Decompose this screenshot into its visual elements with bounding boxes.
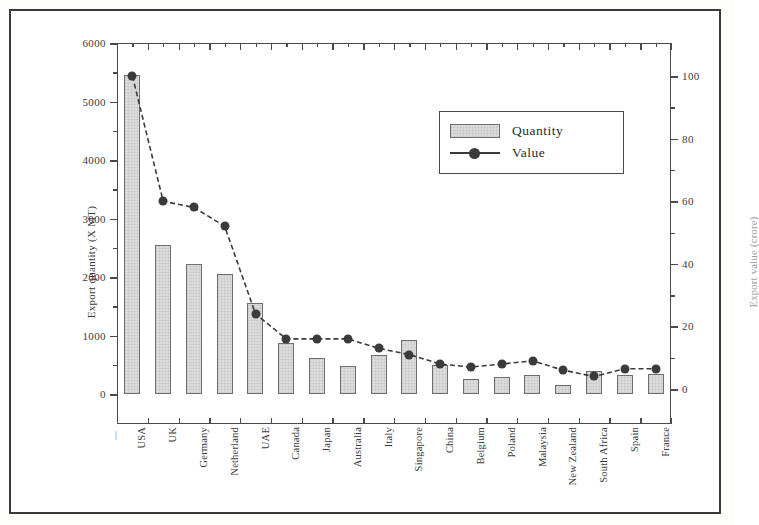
y-tick-label-left: 6000 bbox=[82, 37, 106, 49]
y-tick-label-left: 4000 bbox=[82, 154, 106, 166]
x-axis-end-cap-right: | bbox=[667, 429, 669, 440]
y-tick-label-left: 5000 bbox=[82, 96, 106, 108]
y-tick-right bbox=[671, 201, 678, 203]
value-marker bbox=[128, 72, 137, 81]
y-tick-label-right: 0 bbox=[682, 383, 688, 395]
legend-item-value: Value bbox=[450, 142, 613, 164]
y-tick-label-left: 3000 bbox=[82, 213, 106, 225]
legend-label-value: Value bbox=[512, 145, 545, 161]
value-marker bbox=[466, 363, 475, 372]
y-tick-label-right: 100 bbox=[682, 70, 700, 82]
value-marker bbox=[189, 203, 198, 212]
value-marker bbox=[559, 366, 568, 375]
value-marker bbox=[282, 334, 291, 343]
x-axis-label: Italy bbox=[383, 427, 394, 447]
y-tick-right bbox=[671, 76, 678, 78]
value-marker bbox=[251, 309, 260, 318]
y-tick-left bbox=[110, 102, 117, 104]
y-tick-label-left: 1000 bbox=[82, 330, 106, 342]
y-tick-label-left: 2000 bbox=[82, 271, 106, 283]
x-axis-label: Netherland bbox=[229, 427, 240, 476]
x-axis-label: Malaysia bbox=[537, 427, 548, 467]
value-marker bbox=[313, 334, 322, 343]
legend-line-dot-icon bbox=[450, 146, 500, 160]
y-tick-label-right: 80 bbox=[682, 133, 694, 145]
x-axis-label: New Zealand bbox=[567, 427, 578, 485]
y-tick-left bbox=[110, 43, 117, 45]
value-marker bbox=[220, 222, 229, 231]
x-axis-label: Canada bbox=[290, 427, 301, 460]
legend-label-quantity: Quantity bbox=[512, 123, 563, 139]
value-marker bbox=[405, 350, 414, 359]
y-tick-left bbox=[110, 277, 117, 279]
y-tick-label-left: 0 bbox=[100, 388, 106, 400]
x-axis-label: South Africa bbox=[598, 427, 609, 483]
plot-area: 0100020003000400050006000 020406080100 Q… bbox=[117, 43, 671, 424]
y-tick-label-right: 20 bbox=[682, 320, 694, 332]
x-axis-label: Japan bbox=[321, 427, 332, 452]
legend-item-quantity: Quantity bbox=[450, 120, 613, 142]
legend-bar-swatch-icon bbox=[450, 124, 500, 138]
value-marker bbox=[374, 344, 383, 353]
x-axis-label: UK bbox=[167, 427, 178, 443]
x-axis-label: Australia bbox=[352, 427, 363, 467]
y-minor-tick-right bbox=[671, 170, 675, 172]
y-tick-right bbox=[671, 139, 678, 141]
value-marker bbox=[590, 372, 599, 381]
x-axis-end-cap-left: | bbox=[115, 429, 117, 440]
x-axis-label: Poland bbox=[506, 427, 517, 457]
value-marker bbox=[159, 197, 168, 206]
value-marker bbox=[528, 356, 537, 365]
x-axis-label: Germany bbox=[198, 427, 209, 467]
x-axis-label: China bbox=[444, 427, 455, 453]
y-minor-tick-right bbox=[671, 107, 675, 109]
value-marker bbox=[651, 364, 660, 373]
x-axis-label: Singapore bbox=[413, 427, 424, 471]
y-tick-left bbox=[110, 219, 117, 221]
y-axis-right-title: Export value (crore) bbox=[748, 216, 759, 307]
y-minor-tick-right bbox=[671, 233, 675, 235]
value-marker bbox=[620, 364, 629, 373]
top-axis-tick bbox=[671, 43, 672, 50]
x-axis-label: Spain bbox=[629, 427, 640, 452]
value-marker bbox=[436, 359, 445, 368]
figure-border: Export quantity (X MT) Export value (cro… bbox=[9, 9, 721, 514]
value-marker bbox=[497, 359, 506, 368]
x-axis-label: Belgium bbox=[475, 427, 486, 465]
y-minor-tick-right bbox=[671, 295, 675, 297]
line-series-value bbox=[117, 43, 671, 424]
chart-legend: Quantity Value bbox=[439, 111, 624, 174]
y-tick-label-right: 60 bbox=[682, 195, 694, 207]
y-tick-left bbox=[110, 336, 117, 338]
y-tick-right bbox=[671, 264, 678, 266]
y-tick-right bbox=[671, 326, 678, 328]
x-axis-tick bbox=[671, 418, 672, 424]
y-tick-left bbox=[110, 160, 117, 162]
y-minor-tick-right bbox=[671, 358, 675, 360]
x-axis-category-labels: USAUKGermanyNetherlandUAECanadaJapanAust… bbox=[117, 427, 671, 525]
value-marker bbox=[343, 334, 352, 343]
y-tick-right bbox=[671, 389, 678, 391]
y-tick-left bbox=[110, 394, 117, 396]
x-axis-label: UAE bbox=[260, 427, 271, 449]
y-tick-label-right: 40 bbox=[682, 258, 694, 270]
x-axis-label: USA bbox=[136, 427, 147, 449]
